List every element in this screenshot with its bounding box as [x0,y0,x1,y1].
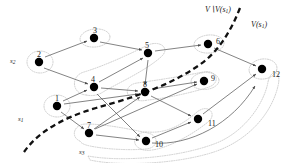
node-5[interactable] [144,49,152,57]
edge-10-12 [152,86,255,143]
edge-4-5 [99,58,143,82]
source-label-s2: s2 [10,58,15,65]
node-7[interactable] [85,129,93,137]
node-label-8: 8 [143,81,147,89]
edge-10-11 [152,122,191,138]
node-label-5: 5 [145,42,149,50]
node-8[interactable] [141,88,149,96]
edge-2-3 [45,41,87,57]
source-label-s3: s3 [79,149,84,156]
edge-1-7 [61,112,84,129]
graph-figure: 1 2 3 4 5 6 7 8 9 10 11 12 s2 s1 s3 V∖V(… [0,0,303,163]
node-label-12: 12 [272,71,280,79]
node-label-4: 4 [91,76,95,84]
cluster-hulls [27,27,279,163]
node-label-11: 11 [208,120,216,128]
node-2[interactable] [35,58,43,66]
edge-7-10 [96,135,139,140]
edge-7-8 [94,97,140,129]
node-11[interactable] [194,115,202,123]
edge-6-12 [214,48,256,66]
node-label-9: 9 [211,75,215,83]
node-12[interactable] [258,65,266,73]
node-3[interactable] [90,34,98,42]
source-label-s1: s1 [18,116,23,123]
node-label-7: 7 [87,122,91,130]
edge-4-8 [101,88,138,91]
node-4[interactable] [90,83,98,91]
edge-3-5 [100,42,142,50]
edge-8-9 [152,82,197,89]
node-6[interactable] [204,40,212,48]
node-label-3: 3 [93,27,97,35]
region-label-outside: V∖V(s1) [205,6,231,14]
node-label-6: 6 [216,38,220,46]
node-9[interactable] [200,77,208,85]
node-1[interactable] [53,102,61,110]
node-label-2: 2 [37,51,41,59]
node-label-10: 10 [155,141,163,149]
graph-nodes [35,34,266,145]
edge-8-11 [151,96,191,116]
node-10[interactable] [142,137,150,145]
edge-2-4 [44,68,88,84]
edge-1-4 [63,90,87,101]
region-label-inside: V(s1) [251,21,267,29]
node-label-1: 1 [55,95,59,103]
edge-5-6 [155,45,201,51]
